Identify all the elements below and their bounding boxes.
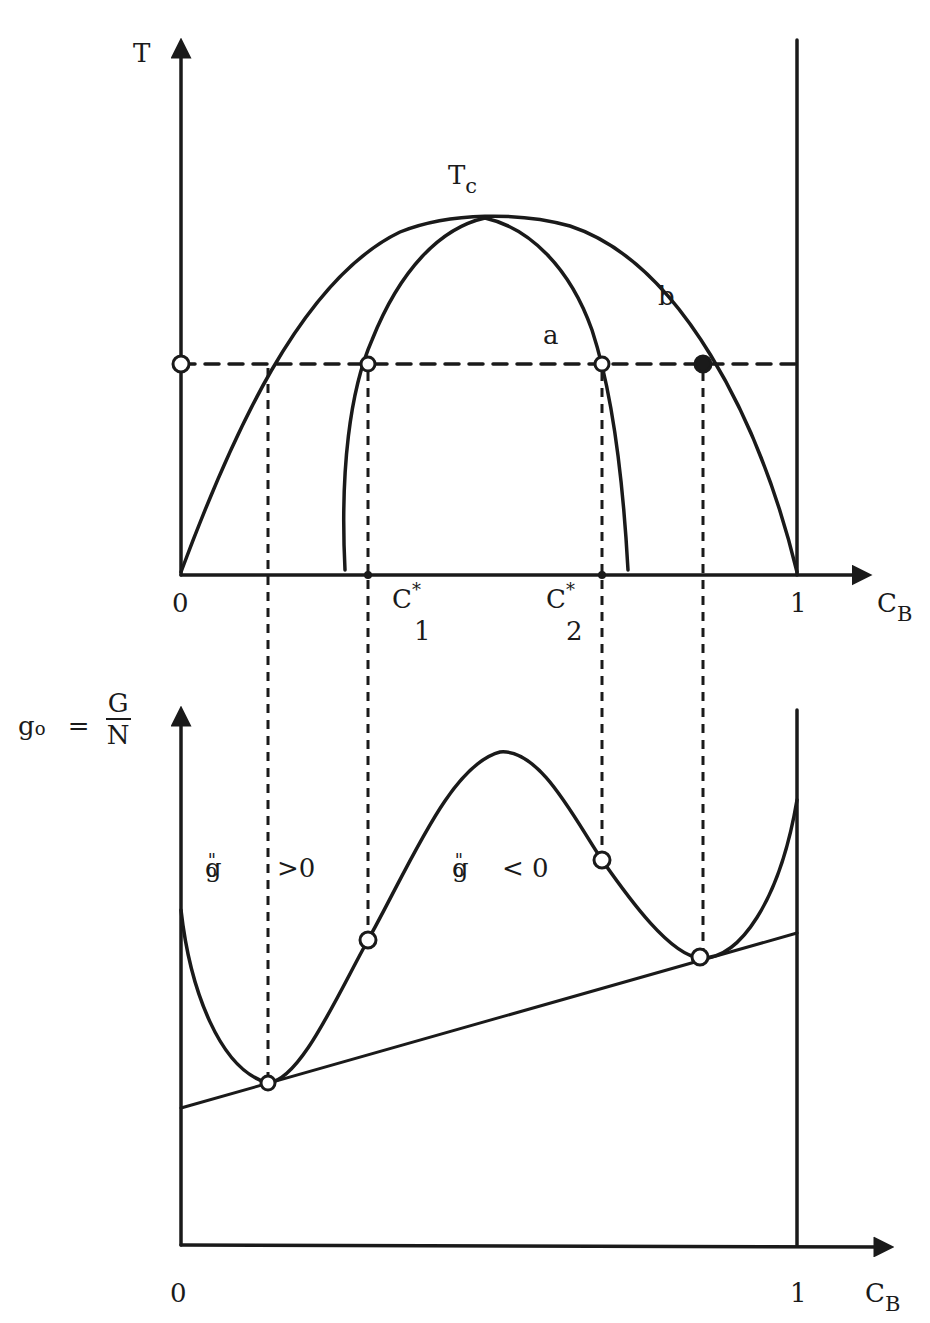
bottom-x-tick-1: 1	[790, 1280, 807, 1306]
c2-sup: *	[566, 579, 575, 600]
bottom-x-tick-0: 0	[170, 1280, 187, 1306]
inflection-point-c1	[360, 932, 376, 948]
region2-relation: < 0	[502, 855, 549, 881]
c2-main: C	[546, 584, 566, 614]
region1-relation: >0	[277, 855, 315, 881]
c2-star-label: C* 2	[546, 586, 575, 612]
spinodal-c1-marker	[361, 357, 375, 371]
bottom-x-axis-label-sub: B	[885, 1292, 900, 1316]
critical-temperature-main: T	[448, 160, 465, 190]
top-y-axis-label: T	[133, 40, 150, 66]
bottom-panel	[181, 710, 884, 1247]
critical-temperature-sub: c	[465, 174, 477, 198]
spinodal-c2-marker	[595, 357, 609, 371]
c1-sub: 1	[414, 618, 431, 644]
c1-star-label: C* 1	[392, 586, 421, 612]
c2-sub: 2	[566, 618, 583, 644]
binodal-right-marker	[695, 356, 711, 372]
g0-sub: o	[35, 718, 46, 739]
tangent-point-right	[692, 949, 708, 965]
convex-region-label: g"o >0	[205, 855, 241, 881]
inflection-point-c2	[594, 852, 610, 868]
g0-main: g	[18, 711, 35, 741]
phase-diagram-figure	[0, 0, 930, 1323]
top-x-axis-label-sub: B	[897, 602, 912, 626]
bottom-x-axis-label-main: C	[865, 1278, 885, 1308]
critical-temperature-label: Tc	[448, 162, 477, 188]
top-x-tick-1: 1	[790, 590, 807, 616]
g-over-n-fraction: G N	[106, 690, 131, 748]
isotherm-axis-marker	[173, 356, 189, 372]
c1-sup: *	[412, 579, 421, 600]
concave-region-label: g"o < 0	[452, 855, 488, 881]
top-x-axis-label: CB	[877, 590, 912, 616]
region1-sub: o	[206, 860, 217, 881]
top-x-tick-0: 0	[172, 590, 189, 616]
top-x-axis-label-main: C	[877, 588, 897, 618]
free-energy-curve	[181, 752, 797, 1083]
fraction-numerator: G	[106, 690, 131, 720]
binodal-curve-b	[181, 216, 797, 572]
c1-main: C	[392, 584, 412, 614]
region2-sub: o	[453, 860, 464, 881]
bottom-x-axis-label: CB	[865, 1280, 900, 1306]
curve-b-label: b	[658, 283, 675, 309]
equals-sign: =	[68, 711, 90, 741]
fraction-denominator: N	[106, 720, 131, 748]
top-panel	[173, 40, 862, 579]
tangent-point-left	[261, 1076, 275, 1090]
spinodal-curve-a	[344, 218, 628, 570]
bottom-x-axis	[181, 1245, 884, 1247]
curve-a-label: a	[543, 322, 559, 348]
bottom-y-axis-label: go = G N	[18, 708, 131, 748]
projection-lines	[268, 368, 703, 1076]
